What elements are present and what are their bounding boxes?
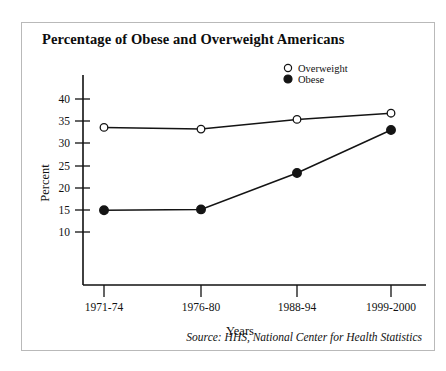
data-point-obese-1976-80 <box>197 205 206 214</box>
data-point-overweight-1976-80 <box>197 125 205 133</box>
y-tick-label-10: 10 <box>59 226 71 238</box>
chart-plot-area: Overweight Obese 40 35 30 25 20 15 10 Pe… <box>22 23 434 350</box>
data-point-overweight-1988-94 <box>293 116 301 124</box>
y-tick-label-15: 15 <box>59 204 71 216</box>
legend-label-overweight: Overweight <box>298 63 348 74</box>
x-tick-label-1: 1971-74 <box>85 301 124 313</box>
y-axis-label: Percent <box>38 164 52 202</box>
y-tick-label-40: 40 <box>59 93 71 105</box>
x-tick-label-3: 1988-94 <box>278 301 317 313</box>
series-line-obese <box>104 130 391 210</box>
chart-legend: Overweight Obese <box>284 63 348 85</box>
legend-label-obese: Obese <box>298 74 325 85</box>
y-tick-label-30: 30 <box>59 137 71 149</box>
series-markers-overweight <box>100 109 395 133</box>
series-overweight <box>100 109 395 133</box>
y-tick-label-20: 20 <box>59 182 71 194</box>
data-point-obese-1988-94 <box>293 169 302 178</box>
series-line-overweight <box>104 113 391 129</box>
data-point-overweight-1971-74 <box>100 124 108 132</box>
series-markers-obese <box>100 126 396 215</box>
data-point-overweight-1999-2000 <box>387 109 395 117</box>
data-point-obese-1999-2000 <box>387 126 396 135</box>
legend-marker-overweight-icon <box>284 64 291 71</box>
series-obese <box>100 126 396 215</box>
source-note: Source: HHS, National Center for Health … <box>186 331 422 343</box>
y-tick-label-35: 35 <box>59 115 71 127</box>
x-tick-label-4: 1999-2000 <box>366 301 416 313</box>
data-point-obese-1971-74 <box>100 206 109 215</box>
figure-card: Percentage of Obese and Overweight Ameri… <box>21 22 435 351</box>
legend-marker-obese-icon <box>284 75 292 83</box>
y-tick-label-25: 25 <box>59 160 71 172</box>
x-tick-label-2: 1976-80 <box>182 301 221 313</box>
